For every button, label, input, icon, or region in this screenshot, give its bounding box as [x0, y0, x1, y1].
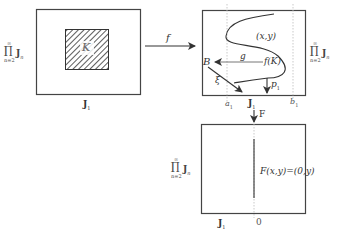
- arrow-xi: [208, 67, 242, 92]
- top-right-y-axis-label: ∞ ∏ n=2 Jn: [310, 41, 337, 65]
- region-k-label-overlay: K: [82, 42, 90, 53]
- formula-label: F(x,y)=(0,y): [260, 167, 315, 176]
- left-prod-J-sub: n: [20, 54, 23, 60]
- tr-prod-J-sub: n: [326, 54, 329, 60]
- point-xy-label: (x,y): [256, 32, 276, 41]
- br-x-axis-sub: 1: [222, 224, 225, 230]
- tr-prod-lower: n=2: [310, 58, 321, 63]
- br-prod-lower: n=2: [171, 174, 182, 179]
- bottom-right-y-axis-label: ∞ ∏ n=2 Jn: [171, 157, 201, 181]
- top-right-box: [203, 4, 306, 102]
- image-fk-label: f(K): [264, 57, 281, 66]
- arrow-f-label: f: [166, 33, 170, 43]
- br-prod-factor: Jn: [183, 165, 191, 176]
- tick-a-sub: 1: [230, 104, 233, 110]
- curve-f-k: [226, 14, 285, 83]
- br-prod-J-sub: n: [187, 170, 190, 176]
- arrow-p1-label: p1: [271, 80, 280, 91]
- left-y-axis-label: ∞ ∏ n=2 Jn: [4, 41, 34, 65]
- tr-prod-factor: Jn: [322, 49, 330, 60]
- tick-a1-label: a1: [225, 100, 233, 110]
- arrow-p1-sub: 1: [277, 85, 280, 91]
- left-x-axis-label: J1: [83, 100, 90, 111]
- left-prod-factor: Jn: [16, 49, 24, 60]
- left-prod-operator: ∏: [4, 45, 13, 56]
- tick-b-sub: 1: [295, 102, 298, 108]
- arrow-xi-label: ξ: [215, 76, 220, 85]
- bottom-right-x-axis-label: J1: [218, 219, 225, 230]
- point-b-label: B: [203, 57, 210, 67]
- tick-b1-label: b1: [290, 98, 298, 108]
- tr-x-axis-sub: 1: [252, 104, 255, 110]
- tr-prod-operator: ∏: [310, 45, 319, 56]
- left-x-axis-sub: 1: [87, 105, 90, 111]
- zero-tick-label: 0: [256, 218, 262, 227]
- left-prod-lower: n=2: [4, 58, 15, 63]
- top-right-x-axis-label: J1: [248, 99, 255, 110]
- br-prod-operator: ∏: [171, 161, 180, 172]
- arrow-g-label: g: [240, 52, 246, 61]
- arrow-F-label: F: [259, 110, 265, 119]
